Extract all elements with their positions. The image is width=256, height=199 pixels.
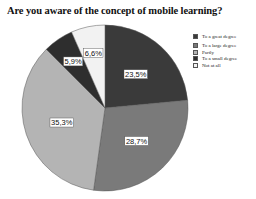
pie-slice bbox=[105, 25, 188, 108]
data-label: 28,7% bbox=[126, 137, 148, 146]
data-label: 6,6% bbox=[85, 49, 102, 58]
legend-swatch bbox=[193, 50, 198, 55]
data-label: 5,9% bbox=[65, 57, 82, 66]
data-label: 35,3% bbox=[51, 118, 73, 127]
legend-swatch bbox=[193, 43, 198, 48]
legend-swatch bbox=[193, 34, 198, 39]
legend-item: Not at all bbox=[193, 62, 237, 69]
pie-chart: 23,5%28,7%35,3%5,9%6,6% bbox=[0, 0, 256, 199]
legend-swatch bbox=[193, 56, 198, 61]
legend-swatch bbox=[193, 63, 198, 68]
legend: To a great degree To a large degree Part… bbox=[193, 33, 237, 69]
data-label: 23,5% bbox=[125, 70, 147, 79]
